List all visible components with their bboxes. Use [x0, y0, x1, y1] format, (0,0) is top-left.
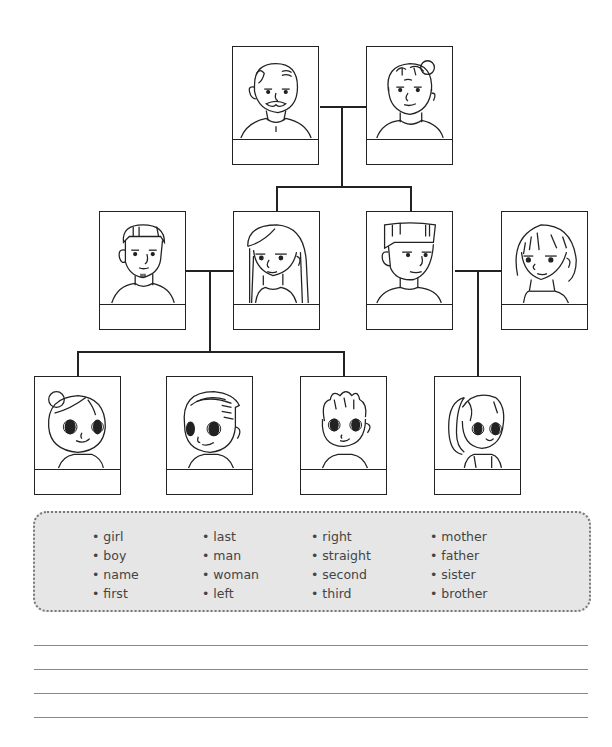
portrait-grandfather: [233, 47, 318, 140]
portrait-woman-long-hair: [234, 212, 319, 305]
card-girl-ponytail: [434, 376, 521, 495]
name-slot-boy-swept[interactable]: [167, 469, 252, 494]
portrait-man-goatee: [100, 212, 185, 305]
card-grandmother: [366, 46, 453, 165]
word-item: right: [311, 527, 371, 546]
word-item: left: [202, 584, 259, 603]
word-item: second: [311, 565, 371, 584]
card-grandfather: [232, 46, 319, 165]
connector-child-left: [276, 186, 278, 211]
grandmother-drawing-icon: [367, 47, 452, 139]
card-man-goatee: [99, 211, 186, 330]
connector-couple-right-trunk: [477, 270, 479, 376]
word-bank-column-2: last man woman left: [202, 527, 259, 603]
woman-drawing-icon: [502, 212, 587, 304]
word-item: brother: [430, 584, 487, 603]
name-slot-woman-bob[interactable]: [502, 304, 587, 329]
boy-drawing-icon: [301, 377, 386, 469]
connector-couple-left-trunk: [209, 270, 211, 352]
portrait-boy-spiky: [301, 377, 386, 470]
name-slot-girl-ponytail[interactable]: [435, 469, 520, 494]
writing-line-3[interactable]: [34, 693, 588, 694]
word-bank: girl boy name first last man woman left …: [33, 511, 591, 612]
boy-drawing-icon: [167, 377, 252, 469]
word-item: woman: [202, 565, 259, 584]
name-slot-man-goatee[interactable]: [100, 304, 185, 329]
word-item: boy: [92, 546, 139, 565]
connector-child-right: [410, 186, 412, 211]
connector-kid-1: [77, 351, 79, 376]
word-item: sister: [430, 565, 487, 584]
grandfather-drawing-icon: [233, 47, 318, 139]
word-bank-column-4: mother father sister brother: [430, 527, 487, 603]
portrait-woman-bob: [502, 212, 587, 305]
connector-grandparents: [320, 106, 366, 108]
card-girl-bun: [34, 376, 121, 495]
man-drawing-icon: [100, 212, 185, 304]
word-item: third: [311, 584, 371, 603]
writing-line-2[interactable]: [34, 669, 588, 670]
portrait-girl-bun: [35, 377, 120, 470]
portrait-girl-ponytail: [435, 377, 520, 470]
word-bank-column-1: girl boy name first: [92, 527, 139, 603]
connector-children: [276, 186, 411, 188]
portrait-man-flat-top: [367, 212, 452, 305]
connector-trunk: [341, 106, 343, 187]
portrait-grandmother: [367, 47, 452, 140]
card-woman-bob: [501, 211, 588, 330]
name-slot-grandfather[interactable]: [233, 139, 318, 164]
card-boy-spiky: [300, 376, 387, 495]
word-item: mother: [430, 527, 487, 546]
word-item: girl: [92, 527, 139, 546]
word-item: father: [430, 546, 487, 565]
word-item: last: [202, 527, 259, 546]
girl-drawing-icon: [435, 377, 520, 469]
portrait-boy-swept: [167, 377, 252, 470]
card-woman-long-hair: [233, 211, 320, 330]
family-tree: [0, 0, 612, 500]
word-item: first: [92, 584, 139, 603]
word-bank-column-3: right straight second third: [311, 527, 371, 603]
girl-drawing-icon: [35, 377, 120, 469]
card-boy-swept: [166, 376, 253, 495]
writing-line-4[interactable]: [34, 717, 588, 718]
word-item: straight: [311, 546, 371, 565]
writing-line-1[interactable]: [34, 645, 588, 646]
name-slot-man-flat-top[interactable]: [367, 304, 452, 329]
connector-kids-left: [77, 351, 344, 353]
word-item: name: [92, 565, 139, 584]
name-slot-boy-spiky[interactable]: [301, 469, 386, 494]
connector-kid-3: [343, 351, 345, 376]
name-slot-woman-long-hair[interactable]: [234, 304, 319, 329]
name-slot-grandmother[interactable]: [367, 139, 452, 164]
name-slot-girl-bun[interactable]: [35, 469, 120, 494]
man-drawing-icon: [367, 212, 452, 304]
word-item: man: [202, 546, 259, 565]
card-man-flat-top: [366, 211, 453, 330]
woman-drawing-icon: [234, 212, 319, 304]
